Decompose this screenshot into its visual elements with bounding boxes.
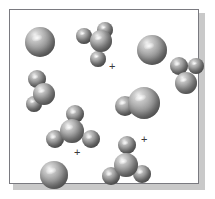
plus-3-symbol: + [141, 134, 147, 145]
lone-sphere-bottom-left-atom-1 [40, 161, 68, 189]
specular-highlight-icon [143, 42, 154, 51]
bent-molecule-right-atom-3 [188, 58, 204, 74]
specular-highlight-icon [86, 134, 93, 139]
specular-highlight-icon [46, 167, 57, 175]
specular-highlight-icon [37, 88, 45, 94]
lone-sphere-top-left-atom-1 [25, 27, 55, 57]
specular-highlight-icon [119, 100, 127, 106]
bent-molecule-right-atom-1 [175, 72, 197, 94]
specular-highlight-icon [174, 61, 181, 66]
lone-sphere-top-right-atom-1 [137, 35, 167, 65]
specular-highlight-icon [191, 61, 197, 66]
specular-highlight-icon [50, 134, 57, 139]
specular-highlight-icon [179, 77, 187, 83]
specular-highlight-icon [31, 34, 42, 43]
bent-molecule-left-atom-1 [33, 83, 55, 105]
specular-highlight-icon [106, 171, 113, 176]
tetrahedral-molecule-lower-left-atom-4 [82, 130, 100, 148]
tetrahedral-molecule-bottom-center-atom-2 [118, 136, 136, 154]
tetrahedral-molecule-lower-left-atom-1 [60, 119, 84, 143]
figure-stage: +++ [0, 0, 215, 199]
molecule-canvas: +++ [10, 10, 198, 183]
specular-highlight-icon [70, 109, 77, 114]
plus-1-symbol: + [109, 61, 115, 72]
specular-highlight-icon [93, 54, 99, 59]
diatomic-molecule-center-atom-1 [128, 87, 160, 119]
reaction-panel: +++ [9, 9, 199, 184]
specular-highlight-icon [79, 31, 85, 36]
specular-highlight-icon [94, 35, 102, 41]
specular-highlight-icon [134, 94, 146, 103]
specular-highlight-icon [32, 74, 39, 79]
plus-2-symbol: + [74, 147, 80, 158]
specular-highlight-icon [122, 140, 129, 145]
specular-highlight-icon [65, 124, 74, 131]
specular-highlight-icon [137, 169, 144, 174]
specular-highlight-icon [119, 158, 128, 165]
tetrahedral-molecule-top-center-atom-4 [90, 51, 106, 67]
tetrahedral-molecule-top-center-atom-1 [90, 30, 112, 52]
tetrahedral-molecule-bottom-center-atom-1 [114, 153, 138, 177]
